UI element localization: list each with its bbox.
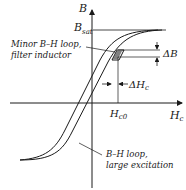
minor-loop-label-line2: filter inductor [10,50,72,60]
minor-loop-label-line1: Minor B–H loop, [10,39,82,49]
h-axis-label-main: H [169,109,180,122]
h-axis-label: Hc [169,109,184,123]
bsat-label-main: B [73,21,82,34]
h-axis-label-sub: c [180,115,184,123]
hc0-label-main: H [109,108,119,119]
hc0-label: Hc0 [109,108,128,121]
delta-h-label-main: ΔH [128,79,145,90]
bsat-label: Bsat [73,21,93,36]
large-loop-leader [79,143,102,155]
b-axis-label: B [78,2,87,15]
large-loop-label-line1: B–H loop, [105,149,148,159]
delta-h-label-sub: c [145,84,149,92]
delta-b-label: ΔB [162,48,178,59]
hc0-label-sub: c0 [119,113,128,121]
large-loop-label-line2: large excitation [106,160,174,170]
delta-h-label: ΔHc [128,79,149,92]
bh-loop-diagram: B Bsat Minor B–H loop, filter inductor Δ… [0,0,186,190]
minor-loop-leader [86,47,115,52]
bsat-label-sub: sat [82,28,93,36]
